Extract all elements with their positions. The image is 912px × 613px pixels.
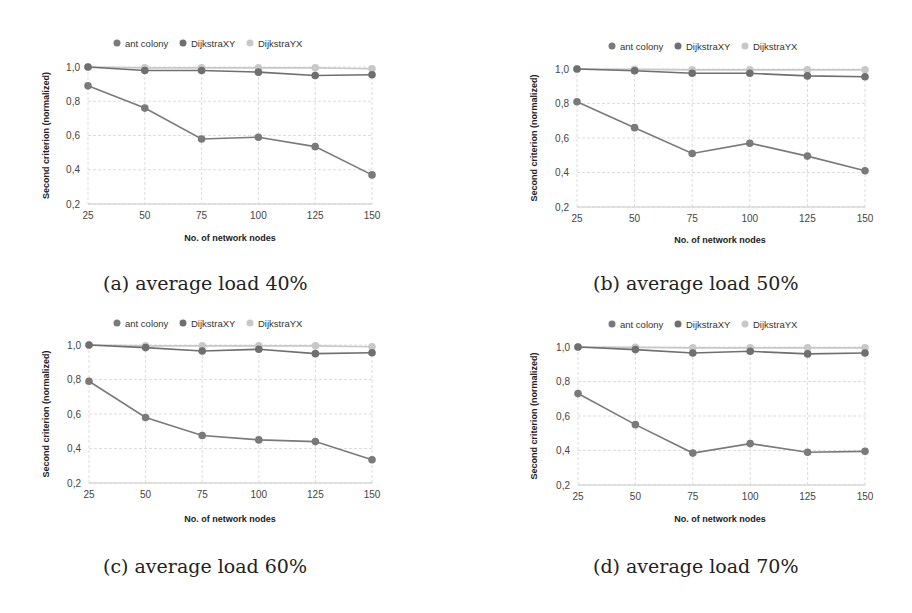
series-ant-colony	[574, 390, 869, 457]
data-point	[746, 348, 754, 356]
data-point	[689, 349, 697, 357]
line-chart-d: 0,20,40,60,81,0255075100125150No. of net…	[0, 0, 912, 613]
legend-marker-icon	[675, 321, 682, 328]
data-point	[632, 421, 640, 429]
y-tick-label: 0,8	[556, 376, 570, 387]
data-point	[804, 448, 812, 456]
y-tick-label: 0,6	[556, 411, 570, 422]
y-tick-label: 0,2	[556, 480, 570, 491]
data-point	[746, 440, 754, 448]
x-tick-label: 50	[630, 491, 642, 502]
series-dijkstra-xy	[574, 343, 869, 358]
data-point	[689, 449, 697, 457]
legend-marker-icon	[609, 321, 616, 328]
legend-item-ant-colony: ant colony	[609, 319, 664, 330]
y-tick-label: 1,0	[556, 342, 570, 353]
data-point	[574, 343, 582, 351]
legend-marker-icon	[742, 321, 749, 328]
legend-item-dijkstra-yx: DijkstraYX	[742, 319, 799, 330]
y-tick-label: 0,4	[556, 445, 570, 456]
legend-label: DijkstraYX	[753, 319, 798, 330]
chart-panel-d: 0,20,40,60,81,0255075100125150No. of net…	[0, 0, 912, 613]
legend-item-dijkstra-xy: DijkstraXY	[675, 319, 732, 330]
x-axis-title: No. of network nodes	[674, 514, 766, 524]
x-tick-label: 150	[857, 491, 874, 502]
data-point	[574, 390, 582, 398]
x-tick-label: 75	[687, 491, 699, 502]
x-tick-label: 125	[799, 491, 816, 502]
legend: ant colonyDijkstraXYDijkstraYX	[609, 319, 799, 330]
caption-d: (d) average load 70%	[593, 555, 798, 577]
data-point	[861, 349, 869, 357]
legend-label: ant colony	[620, 319, 664, 330]
y-axis-title: Second criterion (normalized)	[529, 352, 539, 479]
data-point	[861, 448, 869, 456]
data-point	[804, 350, 812, 358]
legend-label: DijkstraXY	[686, 319, 731, 330]
x-tick-label: 100	[742, 491, 759, 502]
data-point	[632, 346, 640, 354]
x-tick-label: 25	[572, 491, 584, 502]
series-dijkstra-yx	[574, 343, 869, 351]
